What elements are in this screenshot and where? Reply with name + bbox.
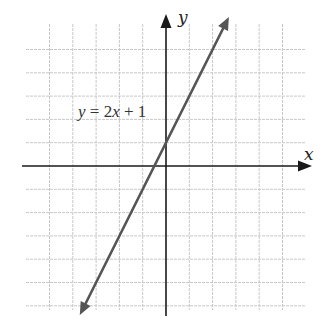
x-axis-label: x — [304, 144, 314, 164]
coordinate-graph: y x y = 2x + 1 — [0, 0, 334, 330]
y-axis-arrow-icon — [161, 14, 172, 28]
y-axis-label: y — [177, 7, 188, 27]
x-axis — [22, 161, 312, 172]
equation-label: y = 2x + 1 — [76, 102, 146, 121]
y-axis — [161, 14, 172, 316]
